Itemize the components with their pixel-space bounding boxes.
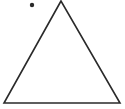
background [0, 0, 125, 109]
triangle-diagram [0, 0, 125, 109]
dot-marker [30, 3, 34, 7]
